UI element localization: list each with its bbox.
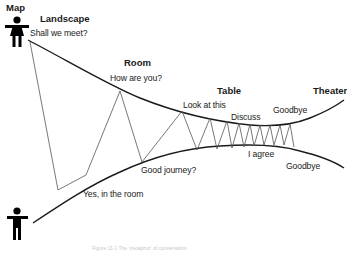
stage-theater-label: Theater <box>313 86 347 96</box>
message-look-at-this: Look at this <box>183 101 226 110</box>
male-person-icon <box>7 207 28 240</box>
stage-landscape-label: Landscape <box>40 14 90 24</box>
message-goodbye-bottom: Goodbye <box>286 162 320 171</box>
figure-caption: Figure 11-1 The 'metaphor' of conversati… <box>92 246 187 251</box>
message-shall-we-meet: Shall we meet? <box>30 29 87 38</box>
message-how-are-you: How are you? <box>110 74 162 83</box>
female-person-icon <box>5 16 29 47</box>
message-good-journey: Good journey? <box>141 166 196 175</box>
message-discuss: Discuss <box>231 113 260 122</box>
diagram-canvas <box>0 0 347 255</box>
message-goodbye-top: Goodbye <box>273 106 307 115</box>
message-i-agree: I agree <box>248 150 274 159</box>
lower-boundary-curve <box>33 145 344 223</box>
stage-room-label: Room <box>124 58 151 68</box>
stage-table-label: Table <box>217 86 241 96</box>
message-yes-in-the-room: Yes, in the room <box>83 190 143 199</box>
map-title: Map <box>6 3 25 13</box>
conversation-map-diagram: Map Landscape Room Table Theater Shall w… <box>0 0 347 255</box>
